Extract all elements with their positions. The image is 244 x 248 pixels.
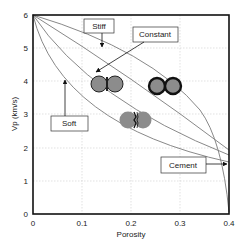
svg-text:3: 3 bbox=[24, 110, 29, 119]
svg-text:1: 1 bbox=[24, 177, 29, 186]
svg-text:Stiff: Stiff bbox=[92, 22, 106, 31]
cemented-contact-grains-icon bbox=[91, 76, 123, 92]
svg-text:6: 6 bbox=[24, 11, 29, 20]
svg-text:Cement: Cement bbox=[169, 161, 198, 170]
rock-physics-chart: 0 0.1 0.2 0.3 0.4 0 1 2 3 4 5 6 Porosity… bbox=[0, 0, 244, 248]
uncemented-grains-icon bbox=[120, 112, 152, 129]
x-tick-labels: 0 0.1 0.2 0.3 0.4 bbox=[31, 219, 235, 228]
stiff-annotation: Stiff bbox=[84, 19, 114, 47]
y-axis-label: Vp (km/s) bbox=[10, 97, 19, 132]
y-tick-labels: 0 1 2 3 4 5 6 bbox=[24, 11, 29, 219]
svg-text:Constant: Constant bbox=[139, 30, 172, 39]
coated-grains-icon bbox=[149, 78, 181, 94]
svg-text:Soft: Soft bbox=[62, 119, 77, 128]
constant-annotation: Constant bbox=[96, 27, 178, 72]
svg-text:0.2: 0.2 bbox=[125, 219, 137, 228]
svg-text:0.3: 0.3 bbox=[174, 219, 186, 228]
x-axis-label: Porosity bbox=[117, 230, 146, 239]
svg-text:0.1: 0.1 bbox=[76, 219, 88, 228]
svg-text:5: 5 bbox=[24, 44, 29, 53]
svg-text:4: 4 bbox=[24, 77, 29, 86]
svg-text:0: 0 bbox=[31, 219, 36, 228]
svg-text:0: 0 bbox=[24, 210, 29, 219]
soft-annotation: Soft bbox=[51, 80, 88, 131]
svg-text:2: 2 bbox=[24, 144, 29, 153]
svg-text:0.4: 0.4 bbox=[223, 219, 235, 228]
